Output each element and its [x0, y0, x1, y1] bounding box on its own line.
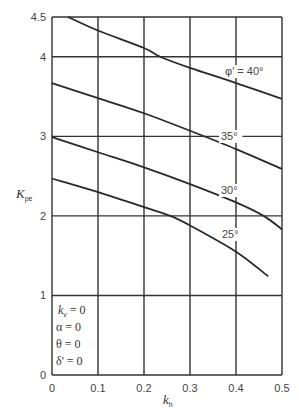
kpe-chart: 00.10.20.30.40.5012344.5 φ' = 40°35°30°2…	[0, 0, 299, 415]
x-tick-label: 0.5	[274, 382, 289, 394]
curve-label: φ' = 40°	[225, 65, 263, 77]
x-tick-label: 0.4	[228, 382, 243, 394]
x-tick-label: 0.3	[182, 382, 197, 394]
condition-delta: δ' = 0	[56, 354, 83, 368]
curve-0	[68, 17, 282, 99]
y-tick-label: 4.5	[31, 11, 46, 23]
curve-label: 25°	[222, 228, 239, 240]
curve-label: 35°	[221, 130, 238, 142]
y-tick-label: 3	[40, 130, 46, 142]
y-axis-title: Kpe	[15, 186, 33, 203]
y-tick-label: 1	[40, 289, 46, 301]
curve-1	[52, 83, 282, 169]
curve-label: 30°	[221, 184, 238, 196]
x-tick-label: 0.2	[136, 382, 151, 394]
condition-theta: θ = 0	[56, 337, 81, 351]
curve-labels: φ' = 40°35°30°25°	[219, 65, 279, 241]
y-tick-label: 0	[40, 369, 46, 381]
x-axis-title: kh	[163, 392, 173, 408]
x-tick-label: 0	[49, 382, 55, 394]
condition-alpha: α = 0	[56, 320, 81, 334]
conditions-box: kv = 0 α = 0 θ = 0 δ' = 0	[56, 303, 86, 368]
curves	[52, 17, 282, 276]
condition-kv: kv = 0	[58, 303, 86, 318]
y-tick-label: 2	[40, 210, 46, 222]
x-tick-label: 0.1	[90, 382, 105, 394]
y-tick-label: 4	[40, 51, 46, 63]
